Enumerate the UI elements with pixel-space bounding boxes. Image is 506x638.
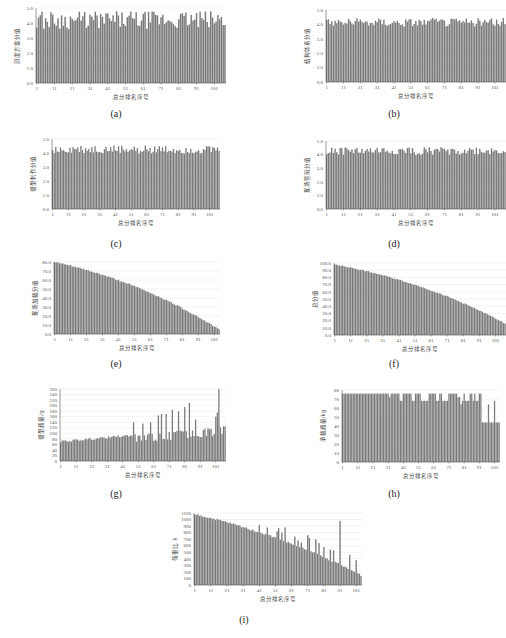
bar (144, 12, 145, 83)
bar (209, 429, 210, 461)
y-tick-label: 40.0 (42, 296, 51, 301)
bar (419, 153, 420, 209)
bar (197, 436, 198, 461)
bar (64, 264, 65, 334)
bar (403, 151, 404, 209)
bar (425, 25, 426, 82)
y-tick-label: 0.0 (27, 81, 34, 86)
bar (135, 12, 136, 83)
bar (54, 153, 55, 209)
bar (351, 394, 352, 462)
bar (371, 152, 372, 209)
bar (388, 394, 389, 462)
bar (215, 150, 216, 209)
bar (199, 516, 200, 585)
bar (434, 292, 435, 335)
bar (457, 21, 458, 82)
x-tick-label: 41 (257, 588, 263, 593)
bar (379, 274, 380, 335)
y-tick-label: 20 (334, 442, 340, 447)
bar (336, 265, 337, 335)
bar (429, 394, 430, 462)
bar (192, 20, 193, 83)
bar (413, 285, 414, 335)
bar (127, 435, 128, 461)
bar (362, 394, 363, 462)
bar (365, 151, 366, 209)
bar (281, 533, 282, 585)
bar (105, 147, 106, 209)
bar (445, 401, 446, 462)
bar (407, 148, 408, 209)
bar (452, 19, 453, 82)
bar (221, 17, 222, 83)
bar (499, 153, 500, 209)
bar (475, 309, 476, 335)
x-tick-label: 21 (89, 464, 95, 469)
bar (415, 21, 416, 82)
y-tick-label: 70.0 (42, 269, 51, 274)
subfigure-caption-a: (a) (96, 108, 136, 119)
bar (497, 422, 498, 462)
bar (209, 323, 210, 334)
x-tick-label: 101 (492, 338, 500, 343)
bar (72, 147, 73, 209)
bar (165, 414, 166, 461)
y-tick-label: 700 (184, 537, 192, 542)
subfigure-caption-i: (i) (224, 614, 264, 625)
subfigure-caption-b: (b) (374, 108, 414, 119)
bar (198, 27, 199, 83)
bar (348, 394, 349, 462)
bar (163, 151, 164, 209)
bar (203, 149, 204, 209)
x-tick-label: 81 (459, 85, 465, 90)
bar (159, 434, 160, 461)
bar (462, 401, 463, 462)
x-tick-label: 61 (289, 588, 295, 593)
bar (76, 149, 77, 209)
bar (119, 437, 120, 461)
bar (170, 151, 171, 209)
bar (392, 23, 393, 82)
bar (77, 18, 78, 83)
bar (68, 442, 69, 461)
bar (56, 26, 57, 83)
bar (173, 24, 174, 83)
bar (361, 22, 362, 82)
bar (412, 148, 413, 209)
bar (207, 428, 208, 461)
bar (201, 319, 202, 334)
x-tick-label: 51 (408, 212, 414, 217)
bar (349, 555, 350, 585)
bar (299, 547, 300, 585)
bar (100, 275, 101, 334)
x-tick-label: 71 (305, 588, 311, 593)
y-axis-label: 荷重比 λ (171, 537, 179, 561)
bar (114, 22, 115, 83)
bar (385, 394, 386, 462)
x-tick-label: 71 (442, 212, 448, 217)
bar (206, 146, 207, 209)
bar (117, 435, 118, 461)
bar (500, 321, 501, 335)
x-tick-label: 61 (425, 85, 431, 90)
x-tick-label: 1 (35, 86, 38, 91)
bar (443, 296, 444, 335)
subfigure-caption-f: (f) (374, 358, 414, 369)
bar (167, 439, 168, 461)
bar (383, 148, 384, 209)
bar (121, 282, 122, 334)
x-tick-label: 1 (59, 464, 62, 469)
bar (173, 149, 174, 209)
y-tick-label: 5.0 (43, 137, 50, 142)
bar (252, 529, 253, 585)
bar (487, 314, 488, 335)
bar (103, 24, 104, 83)
bar (424, 401, 425, 462)
y-tick-label: 1000 (181, 517, 192, 522)
x-tick-label: 11 (74, 464, 79, 469)
bar (153, 12, 154, 83)
bar (217, 15, 218, 83)
bar (177, 305, 178, 334)
bar (318, 543, 319, 585)
